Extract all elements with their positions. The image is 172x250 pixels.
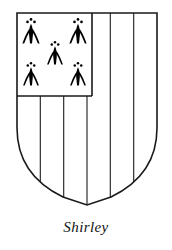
shield-svg (0, 0, 172, 250)
page-root: Shirley (0, 0, 172, 250)
figure-caption: Shirley (0, 218, 172, 236)
coat-of-arms-figure: Shirley (0, 0, 172, 250)
